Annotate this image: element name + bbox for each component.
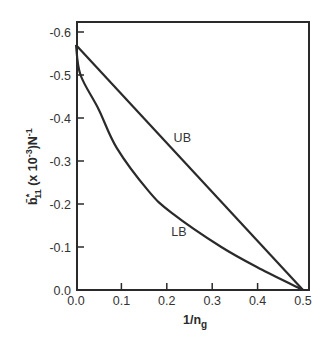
x-tick-label: 0.5 (294, 294, 311, 308)
y-tick-label: 0.0 (54, 284, 71, 298)
x-tick-label: 0.2 (158, 294, 175, 308)
y-tick-label: -0.1 (49, 241, 71, 255)
y-tick-label: -0.2 (49, 198, 71, 212)
y-title-unit-exponent: -1 (24, 128, 34, 136)
y-title-unit: )N (26, 136, 40, 149)
x-tick-label: 0.3 (204, 294, 221, 308)
curve-label-ub: UB (174, 131, 191, 145)
x-tick-label: 0.4 (249, 294, 266, 308)
y-axis-title: b̄*11 (x 10-3)N-1 (24, 128, 43, 205)
y-tick-label: -0.4 (49, 112, 71, 126)
curve-label-lb: LB (171, 225, 186, 239)
curve-labels: UBLB (171, 131, 191, 239)
x-axis-title: 1/ng (183, 313, 207, 330)
y-tick-label: -0.3 (49, 155, 71, 169)
plot-frame (77, 22, 309, 290)
x-axis-title-main: 1/n (183, 313, 201, 327)
chart: 0.00.10.20.30.40.5 0.0-0.1-0.2-0.3-0.4-0… (0, 0, 326, 357)
y-title-subscript: 11 (33, 189, 43, 199)
y-tick-label: -0.6 (49, 26, 71, 40)
x-axis-title-subscript: g (201, 319, 207, 330)
y-title-multiplier: (x 10 (26, 157, 40, 189)
curve-ub (76, 45, 303, 290)
y-tick-label: -0.5 (49, 69, 71, 83)
x-axis-ticks: 0.00.10.20.30.40.5 (67, 283, 311, 308)
x-tick-label: 0.1 (113, 294, 130, 308)
y-title-exponent: -3 (24, 149, 34, 157)
curves (76, 45, 303, 290)
